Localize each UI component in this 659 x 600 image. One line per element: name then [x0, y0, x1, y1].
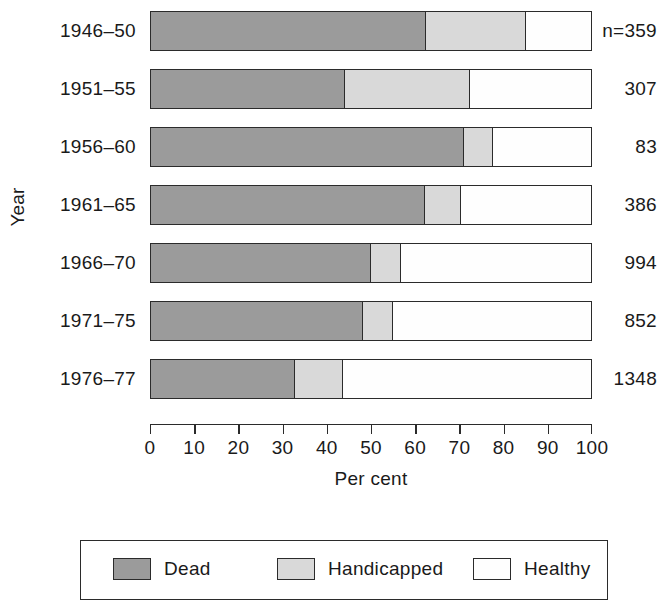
row-sample-size-label: 83 — [597, 126, 657, 168]
bar-segment-dead — [151, 244, 371, 282]
legend-label: Dead — [164, 558, 211, 580]
x-axis-tick — [150, 424, 151, 434]
row-sample-size-label: 1348 — [597, 358, 657, 400]
bar-segment-dead — [151, 302, 363, 340]
row-sample-size-label: 307 — [597, 68, 657, 110]
row-year-label: 1951–55 — [0, 68, 136, 110]
chart-legend: DeadHandicappedHealthy — [80, 540, 608, 600]
legend-item: Dead — [113, 556, 211, 582]
chart-row: 1956–6083 — [0, 126, 659, 168]
bar-segment-handicapped — [426, 12, 526, 50]
stacked-bar — [150, 301, 592, 341]
x-axis-tick — [459, 424, 460, 434]
bar-segment-healthy — [526, 12, 591, 50]
bar-segment-dead — [151, 186, 425, 224]
x-axis-tick — [415, 424, 416, 434]
stacked-bar — [150, 359, 592, 399]
bar-segment-dead — [151, 128, 464, 166]
bar-segment-handicapped — [363, 302, 393, 340]
x-axis-tick — [194, 424, 195, 434]
x-axis-tick — [591, 424, 592, 434]
chart-row: 1951–55307 — [0, 68, 659, 110]
x-axis-tick-label: 100 — [562, 437, 622, 459]
stacked-bar — [150, 127, 592, 167]
bar-segment-handicapped — [425, 186, 461, 224]
chart-row: 1971–75852 — [0, 300, 659, 342]
legend-item: Healthy — [473, 556, 591, 582]
legend-swatch-icon — [113, 558, 151, 580]
x-axis — [150, 424, 592, 434]
bar-segment-healthy — [401, 244, 591, 282]
x-axis-tick — [371, 424, 372, 434]
bar-segment-dead — [151, 70, 345, 108]
bar-segment-dead — [151, 12, 426, 50]
row-year-label: 1971–75 — [0, 300, 136, 342]
legend-swatch-icon — [277, 558, 315, 580]
x-axis-tick — [504, 424, 505, 434]
row-sample-size-label: 386 — [597, 184, 657, 226]
x-axis-tick — [327, 424, 328, 434]
bar-segment-handicapped — [295, 360, 343, 398]
row-sample-size-label: n=359 — [597, 10, 657, 52]
bar-segment-healthy — [461, 186, 591, 224]
row-sample-size-label: 994 — [597, 242, 657, 284]
bar-segment-handicapped — [345, 70, 470, 108]
row-year-label: 1976–77 — [0, 358, 136, 400]
row-year-label: 1956–60 — [0, 126, 136, 168]
bar-segment-healthy — [393, 302, 591, 340]
stacked-bar — [150, 185, 592, 225]
row-year-label: 1966–70 — [0, 242, 136, 284]
stacked-bar — [150, 69, 592, 109]
x-axis-tick — [548, 424, 549, 434]
bar-segment-healthy — [493, 128, 591, 166]
stacked-bar — [150, 243, 592, 283]
bar-segment-healthy — [470, 70, 591, 108]
bar-segment-dead — [151, 360, 295, 398]
row-year-label: 1946–50 — [0, 10, 136, 52]
bar-segment-healthy — [343, 360, 591, 398]
chart-row: 1946–50n=359 — [0, 10, 659, 52]
bar-segment-handicapped — [371, 244, 401, 282]
row-sample-size-label: 852 — [597, 300, 657, 342]
chart-row: 1976–771348 — [0, 358, 659, 400]
x-axis-title: Per cent — [271, 468, 471, 490]
legend-item: Handicapped — [277, 556, 443, 582]
legend-swatch-icon — [473, 558, 511, 580]
x-axis-tick — [283, 424, 284, 434]
stacked-bar — [150, 11, 592, 51]
chart-row: 1961–65386 — [0, 184, 659, 226]
legend-label: Handicapped — [328, 558, 443, 580]
legend-label: Healthy — [524, 558, 591, 580]
x-axis-tick — [238, 424, 239, 434]
chart-row: 1966–70994 — [0, 242, 659, 284]
bar-segment-handicapped — [464, 128, 493, 166]
row-year-label: 1961–65 — [0, 184, 136, 226]
